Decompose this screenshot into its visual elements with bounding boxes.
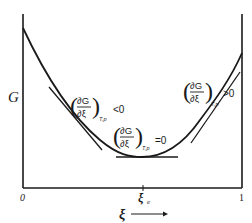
- x-tick-1: 1: [239, 192, 244, 203]
- x-axis-label: ξ: [119, 207, 126, 222]
- svg-text:T,p: T,p: [99, 116, 106, 122]
- annotation-min: ( ∂G ∂ξ ) T,p =0: [113, 123, 167, 151]
- x-axis-arrowhead-icon: [163, 212, 168, 217]
- svg-text:=0: =0: [155, 135, 167, 146]
- annotation-left: ( ∂G ∂ξ ) T,p <0: [70, 93, 125, 122]
- x-tick-xi-e: ξ: [138, 191, 144, 205]
- x-tick-0: 0: [20, 192, 25, 203]
- svg-text:∂ξ: ∂ξ: [120, 138, 130, 149]
- gibbs-energy-diagram: G 0 ξ e 1 ξ ( ∂G ∂ξ ) T,p <0 ( ∂G ∂ξ ) T…: [0, 0, 252, 223]
- svg-text:<0: <0: [113, 104, 125, 115]
- svg-text:∂G: ∂G: [77, 95, 89, 106]
- svg-text:>0: >0: [223, 88, 235, 99]
- svg-text:T,p: T,p: [142, 145, 149, 151]
- svg-text:∂ξ: ∂ξ: [190, 93, 200, 104]
- svg-text:∂G: ∂G: [120, 125, 132, 136]
- y-axis-label: G: [8, 89, 19, 105]
- svg-text:∂ξ: ∂ξ: [77, 108, 87, 119]
- svg-text:T,p: T,p: [211, 101, 218, 107]
- svg-text:∂G: ∂G: [190, 80, 202, 91]
- x-tick-xi-e-subscript: e: [147, 198, 150, 206]
